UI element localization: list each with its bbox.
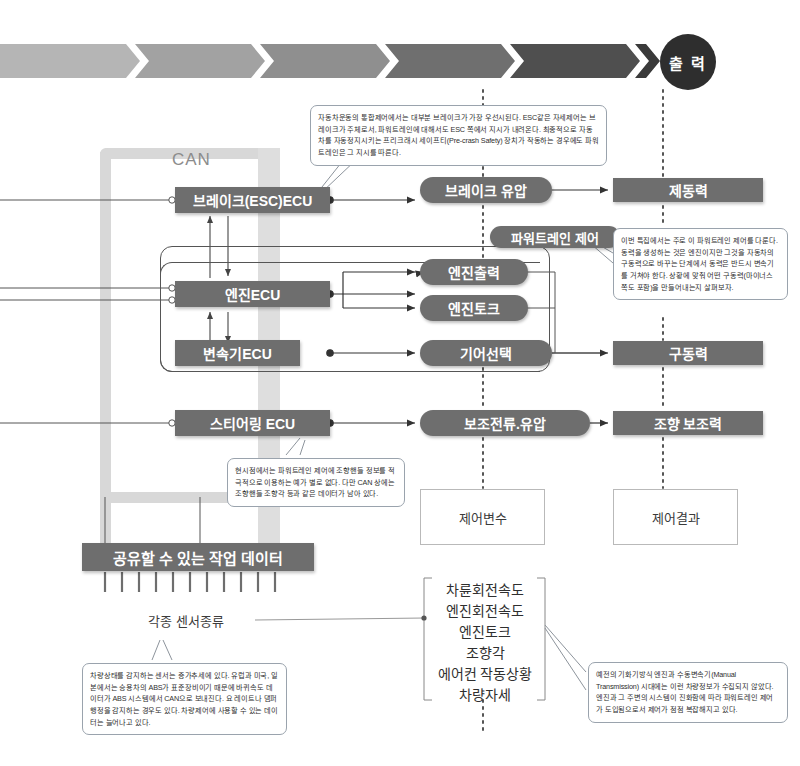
signal-item-2: 엔진토크 xyxy=(424,622,546,643)
signal-item-0: 차륜회전속도 xyxy=(424,580,546,601)
signal-item-1: 엔진회전속도 xyxy=(424,601,546,622)
box-control-result-label: 제어결과 xyxy=(652,508,700,527)
signal-item-3: 조향각 xyxy=(424,643,546,664)
ecu-brake-esc-label: 브레이크(ESC)ECU xyxy=(193,190,313,210)
callout-steering-can: 현시점에서는 파워트레인 제어에 조향핸들 정보를 적극적으로 이용하는 예가 … xyxy=(227,458,405,507)
can-bus-label: CAN xyxy=(172,150,211,170)
pill-engine-output[interactable]: 엔진출력 xyxy=(420,259,528,285)
pill-gear-selection-label: 기어선택 xyxy=(460,343,512,363)
box-control-result: 제어결과 xyxy=(613,489,738,545)
callout-powertrain-focus-text: 이번 특집에서는 주로 이 파워트레인 제어를 다룬다. 동력을 생성하는 것은… xyxy=(621,235,780,293)
box-control-variable: 제어변수 xyxy=(420,489,545,545)
result-driving-force[interactable]: 구동력 xyxy=(613,341,763,365)
powertrain-control-tab: 파워트레인 제어 xyxy=(490,226,620,248)
callout-steering-can-text: 현시점에서는 파워트레인 제어에 조향핸들 정보를 적극적으로 이용하는 예가 … xyxy=(235,465,397,500)
callout-sensor-trend-text: 차량상태를 감지하는 센서는 증가추세에 있다. 유럽과 미국, 일본에서는 승… xyxy=(90,670,279,728)
band-segment-1 xyxy=(0,44,140,78)
callout-history: 예전의 기화기방식 엔진과 수동변속기(Manual Transmission)… xyxy=(588,662,788,723)
pill-engine-torque-label: 엔진토크 xyxy=(448,298,500,318)
output-badge: 출 력 xyxy=(660,34,716,90)
pill-engine-output-label: 엔진출력 xyxy=(448,262,500,282)
pill-brake-hydraulic-pressure[interactable]: 브레이크 유압 xyxy=(420,177,552,203)
band-segment-2 xyxy=(135,44,265,78)
powertrain-control-label: 파워트레인 제어 xyxy=(511,228,599,247)
result-braking-force-label: 제동력 xyxy=(669,180,708,200)
result-braking-force[interactable]: 제동력 xyxy=(613,178,763,202)
can-bus-corner xyxy=(100,148,120,159)
result-steering-assist-force[interactable]: 조향 보조력 xyxy=(613,411,763,435)
signal-item-4: 에어컨 작동상황 xyxy=(424,664,546,685)
callout-sensor-trend: 차량상태를 감지하는 센서는 증가추세에 있다. 유럽과 미국, 일본에서는 승… xyxy=(82,663,287,735)
callout-powertrain-focus: 이번 특집에서는 주로 이 파워트레인 제어를 다룬다. 동력을 생성하는 것은… xyxy=(613,228,788,300)
pill-assist-current-hydraulic[interactable]: 보조전류.유압 xyxy=(420,410,590,436)
sensor-types-label: 각종 센서종류 xyxy=(148,611,224,630)
signal-list: 차륜회전속도 엔진회전속도 엔진토크 조향각 에어컨 작동상황 차량자세 xyxy=(424,580,546,706)
shared-work-data-bar: 공유할 수 있는 작업 데이터 xyxy=(82,543,314,571)
diagram-canvas: 출 력 CAN xyxy=(0,0,800,766)
ecu-steering[interactable]: 스티어링 ECU xyxy=(175,410,330,436)
callout-brake-priority: 자동차운동의 통합제어에서는 대부분 브레이크가 가장 우선시된다. ESC같은… xyxy=(310,105,607,166)
pill-gear-selection[interactable]: 기어선택 xyxy=(420,340,552,366)
ecu-steering-label: 스티어링 ECU xyxy=(210,413,295,433)
band-segment-5 xyxy=(510,44,640,78)
band-segment-4 xyxy=(385,44,515,78)
result-steering-assist-force-label: 조향 보조력 xyxy=(654,413,723,433)
signal-item-5: 차량자세 xyxy=(424,685,546,706)
callout-history-text: 예전의 기화기방식 엔진과 수동변속기(Manual Transmission)… xyxy=(596,669,780,716)
pill-assist-current-hydraulic-label: 보조전류.유압 xyxy=(464,413,546,433)
ecu-brake-esc[interactable]: 브레이크(ESC)ECU xyxy=(175,187,330,213)
pill-engine-torque[interactable]: 엔진토크 xyxy=(420,295,528,321)
shared-work-data-label: 공유할 수 있는 작업 데이터 xyxy=(113,547,284,568)
pill-brake-hydraulic-pressure-label: 브레이크 유압 xyxy=(445,180,527,200)
box-control-variable-label: 제어변수 xyxy=(459,508,507,527)
output-badge-label: 출 력 xyxy=(669,52,707,73)
band-segment-3 xyxy=(260,44,390,78)
result-driving-force-label: 구동력 xyxy=(669,343,708,363)
callout-brake-priority-text: 자동차운동의 통합제어에서는 대부분 브레이크가 가장 우선시된다. ESC같은… xyxy=(318,112,599,159)
